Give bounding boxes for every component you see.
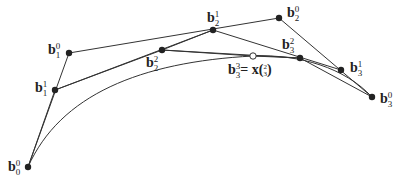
- label-b21: b12: [207, 10, 219, 28]
- point-b11: [52, 87, 58, 93]
- label-b20: b02: [287, 5, 299, 23]
- point-b33-open: [250, 53, 256, 59]
- label-b30: b03: [380, 91, 392, 109]
- point-b20: [276, 15, 282, 21]
- label-b31: b13: [350, 60, 362, 78]
- bezier-subdivision-diagram: b01 b11 b00 b22 b12 b02 b23 b13 b03 b33=…: [0, 0, 396, 181]
- label-b11: b11: [35, 80, 47, 98]
- point-b10: [66, 50, 72, 56]
- label-b32: b23: [282, 37, 294, 55]
- label-b00: b00: [8, 159, 20, 177]
- point-b32: [297, 55, 303, 61]
- label-b22: b22: [146, 55, 158, 73]
- diagram-svg: [0, 0, 396, 181]
- point-b31: [338, 67, 344, 73]
- point-b00: [25, 164, 31, 170]
- label-b10: b01: [48, 42, 60, 60]
- point-b30: [369, 94, 375, 100]
- control-polygon-level0: [28, 18, 372, 167]
- bezier-curve: [28, 56, 372, 167]
- label-b33-equation: b33= x(23): [228, 62, 272, 80]
- point-b22: [159, 47, 165, 53]
